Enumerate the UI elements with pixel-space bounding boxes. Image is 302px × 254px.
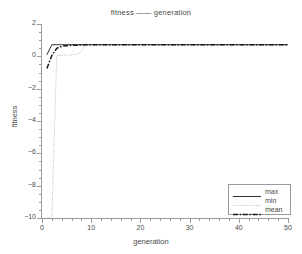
legend-label: min bbox=[265, 197, 276, 204]
series-line-max bbox=[47, 45, 288, 55]
y-axis-label: fitness bbox=[10, 87, 19, 147]
legend-swatch-mean bbox=[232, 205, 262, 214]
legend-swatch-max bbox=[232, 187, 262, 196]
series-line-mean bbox=[47, 45, 288, 69]
x-axis-label: generation bbox=[0, 237, 302, 246]
legend-label: mean bbox=[265, 206, 283, 213]
legend-label: max bbox=[265, 188, 278, 195]
legend-item-min[interactable]: min bbox=[232, 196, 287, 205]
legend-box[interactable]: maxminmean bbox=[228, 184, 291, 215]
legend-item-mean[interactable]: mean bbox=[232, 205, 287, 214]
legend-item-max[interactable]: max bbox=[232, 187, 287, 196]
figure-canvas: fitness —— generation 20−2−4−6−8−10 0102… bbox=[0, 0, 302, 254]
legend-swatch-min bbox=[232, 196, 262, 205]
